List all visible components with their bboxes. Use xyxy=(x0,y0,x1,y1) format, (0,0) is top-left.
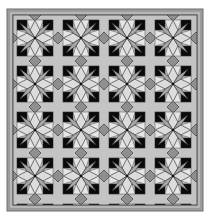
quilt-star-pattern xyxy=(13,15,197,205)
quilt-image xyxy=(0,0,211,219)
